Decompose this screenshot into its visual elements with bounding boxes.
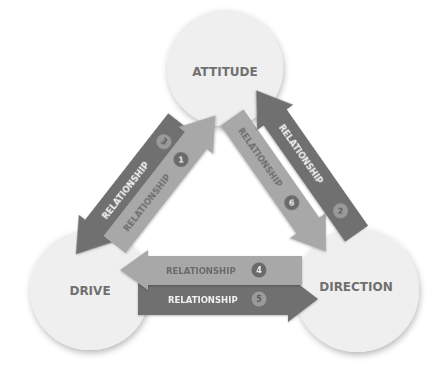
relationship-2-number: 2 [338, 207, 344, 216]
relationship-triangle-diagram: RELATIONSHIP 5 RELATIONSHIP 4 RELATIONSH… [0, 0, 440, 368]
relationship-5-number: 5 [256, 295, 262, 304]
relationship-6-number: 6 [289, 199, 295, 208]
relationship-4-number: 4 [256, 266, 262, 275]
arrow-relationship-4: RELATIONSHIP 4 [120, 250, 302, 290]
relationship-1-number: 1 [178, 156, 184, 165]
relationship-4-label: RELATIONSHIP [166, 266, 236, 276]
drive-label: DRIVE [69, 284, 110, 298]
attitude-label: ATTITUDE [192, 65, 258, 79]
direction-label: DIRECTION [319, 280, 393, 294]
relationship-5-label: RELATIONSHIP [168, 295, 238, 305]
